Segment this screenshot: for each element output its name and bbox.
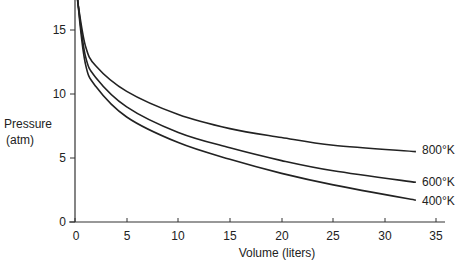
pressure-volume-chart: 0 5 10 15 0 5 10 15 20 25 30 35 Volume (… (0, 0, 459, 263)
curves (77, 0, 416, 200)
x-tick-label: 20 (275, 229, 289, 243)
y-axis-title-line2: (atm) (6, 133, 34, 147)
x-tick-label: 30 (378, 229, 392, 243)
axes (69, 0, 445, 222)
curve-800k (77, 0, 416, 152)
x-tick-label: 5 (124, 229, 131, 243)
y-ticks: 0 5 10 15 (53, 23, 75, 229)
y-axis-title-line1: Pressure (4, 117, 52, 131)
y-tick-label: 10 (53, 87, 67, 101)
y-tick-label: 15 (53, 23, 67, 37)
series-label-400k: 400°K (422, 194, 455, 208)
x-tick-label: 0 (73, 229, 80, 243)
series-label-800k: 800°K (422, 143, 455, 157)
y-tick-label: 5 (59, 151, 66, 165)
y-tick-label: 0 (59, 215, 66, 229)
series-label-600k: 600°K (422, 175, 455, 189)
x-tick-label: 25 (326, 229, 340, 243)
x-tick-label: 15 (223, 229, 237, 243)
x-tick-label: 10 (171, 229, 185, 243)
curve-400k (78, 0, 416, 200)
curve-600k (78, 0, 416, 182)
x-tick-label: 35 (429, 229, 443, 243)
x-axis-title: Volume (liters) (239, 246, 316, 260)
